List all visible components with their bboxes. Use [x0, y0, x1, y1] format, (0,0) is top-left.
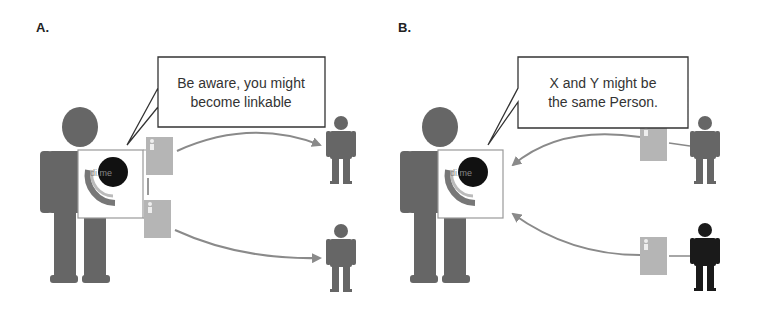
dime-device-b: di.me	[438, 150, 503, 218]
profile-card-b1	[640, 123, 667, 161]
bubble-a-line1: Be aware, you might	[177, 75, 305, 91]
arrow-from-person-x	[513, 134, 640, 165]
recipient-person-1	[326, 116, 356, 184]
bubble-b-line1: X and Y might be	[550, 75, 657, 91]
bubble-a-line2: become linkable	[190, 94, 291, 110]
person-y	[690, 223, 720, 291]
diagram-canvas: di.me Be aware, you might become linkabl…	[0, 0, 757, 317]
dime-logo-text: di.me	[90, 168, 112, 178]
dime-device-a: di.me	[78, 150, 143, 218]
recipient-person-2	[326, 224, 356, 292]
arrow-to-person-2	[175, 230, 320, 258]
bubble-b-line2: the same Person.	[548, 94, 658, 110]
panel-b: di.me X and Y might be the same Person.	[400, 57, 720, 291]
arrow-to-person-1	[177, 133, 320, 151]
person-x	[690, 116, 720, 184]
profile-card-b2	[640, 237, 667, 275]
arrow-from-person-y	[513, 214, 640, 255]
speech-bubble-a: Be aware, you might become linkable	[127, 57, 325, 145]
panel-a: di.me Be aware, you might become linkabl…	[40, 57, 356, 292]
dime-logo-text-b: di.me	[450, 168, 472, 178]
profile-card-a2	[144, 200, 171, 238]
profile-card-a1	[146, 137, 173, 175]
